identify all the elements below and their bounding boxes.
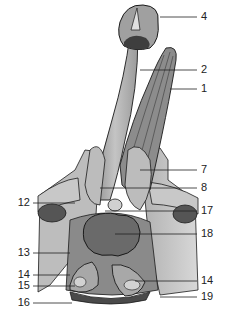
anatomy-illustration xyxy=(0,0,225,321)
anatomical-figure: 4 2 1 7 8 17 18 14 19 12 13 14 15 16 xyxy=(0,0,225,321)
label-2: 2 xyxy=(201,64,207,75)
label-15: 15 xyxy=(0,280,30,291)
obturator-right xyxy=(173,205,197,223)
label-8: 8 xyxy=(201,182,207,193)
obturator-left xyxy=(38,204,66,222)
label-1: 1 xyxy=(201,83,207,94)
vaginal-vestibule xyxy=(83,213,140,256)
label-16: 16 xyxy=(0,297,30,308)
label-17: 17 xyxy=(201,205,213,216)
label-13: 13 xyxy=(0,247,30,258)
label-19: 19 xyxy=(201,291,213,302)
label-12: 12 xyxy=(0,197,30,208)
label-14-right: 14 xyxy=(201,275,213,286)
label-7: 7 xyxy=(201,164,207,175)
label-4: 4 xyxy=(201,11,207,22)
label-18: 18 xyxy=(201,228,213,239)
urethral-meatus xyxy=(108,199,122,211)
